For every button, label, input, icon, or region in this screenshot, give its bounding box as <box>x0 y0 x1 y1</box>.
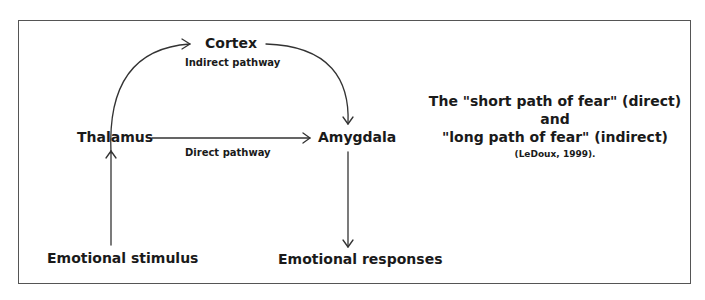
caption-line-1: The "short path of fear" (direct) <box>420 92 690 110</box>
label-indirect-pathway: Indirect pathway <box>185 57 280 68</box>
arrow-cortex-to-amygdala <box>266 44 348 124</box>
caption-line-3: "long path of fear" (indirect) <box>420 128 690 146</box>
label-direct-pathway: Direct pathway <box>185 147 271 158</box>
caption-citation: (LeDoux, 1999). <box>420 146 690 162</box>
node-amygdala: Amygdala <box>318 129 396 145</box>
caption-line-2: and <box>420 110 690 128</box>
node-cortex: Cortex <box>205 35 257 51</box>
node-emotional-responses: Emotional responses <box>278 251 442 267</box>
caption: The "short path of fear" (direct) and "l… <box>420 92 690 162</box>
node-emotional-stimulus: Emotional stimulus <box>47 250 198 266</box>
node-thalamus: Thalamus <box>77 129 153 145</box>
